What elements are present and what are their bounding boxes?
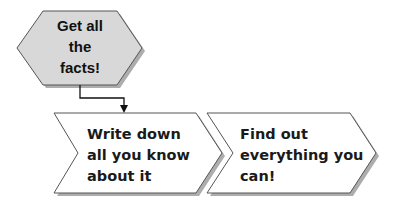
chevron-2-line-3: can! xyxy=(240,168,275,184)
chevron-1-line-1: Write down xyxy=(87,126,181,142)
chevron-1-line-2: all you know xyxy=(87,147,190,163)
elbow-connector xyxy=(80,85,128,113)
hexagon-line-2: the xyxy=(69,38,92,55)
arrowhead-icon xyxy=(120,105,128,113)
hexagon-line-3: facts! xyxy=(60,59,100,76)
flowchart-canvas: Get all the facts! Write down all you kn… xyxy=(0,0,398,207)
chevron-1-line-3: about it xyxy=(87,168,151,184)
hexagon-line-1: Get all xyxy=(57,17,103,34)
chevron-2-line-2: everything you xyxy=(240,147,363,163)
chevron-2-line-1: Find out xyxy=(240,126,308,142)
